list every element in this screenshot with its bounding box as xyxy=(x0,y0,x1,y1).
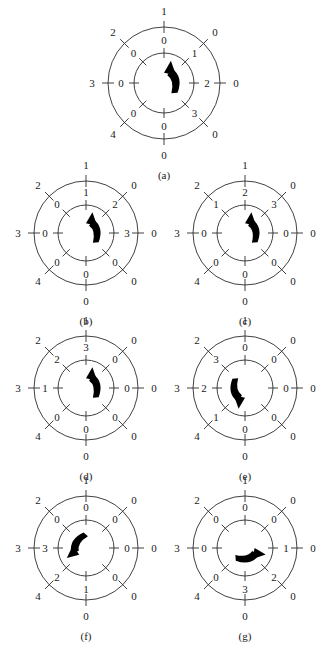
outer-label-b-6: 3 xyxy=(15,227,21,239)
inner-label-a-1: 1 xyxy=(192,47,198,59)
inner-label-b-4: 0 xyxy=(83,268,89,280)
inner-label-a-2: 2 xyxy=(204,77,210,89)
outer-label-c-6: 3 xyxy=(174,227,180,239)
inner-label-b-2: 3 xyxy=(124,227,130,239)
panel-caption-f: (f) xyxy=(0,630,172,642)
outer-label-d-2: 0 xyxy=(151,382,157,394)
inner-label-e-7: 3 xyxy=(213,353,219,365)
inner-label-a-5: 0 xyxy=(131,107,137,119)
inner-label-d-2: 0 xyxy=(124,382,130,394)
pointer-arrow-a xyxy=(155,61,190,96)
outer-label-e-1: 0 xyxy=(290,334,296,346)
figure-canvas: 1001020300403020(a)1102030000403020(b)12… xyxy=(0,0,328,650)
pointer-arrow-d xyxy=(78,367,111,400)
inner-label-g-6: 0 xyxy=(201,542,207,554)
pointer-arrow-e xyxy=(221,376,254,409)
dial-panel-f: 1000000001423320(f) xyxy=(0,462,172,650)
inner-label-d-0: 3 xyxy=(83,341,89,353)
inner-label-e-6: 2 xyxy=(201,382,207,394)
outer-label-a-0: 1 xyxy=(161,5,167,17)
inner-label-b-7: 0 xyxy=(54,198,60,210)
inner-label-f-4: 1 xyxy=(83,583,89,595)
outer-label-g-2: 0 xyxy=(310,542,316,554)
inner-label-c-6: 0 xyxy=(201,227,207,239)
inner-label-g-1: 0 xyxy=(271,513,277,525)
outer-label-f-2: 0 xyxy=(151,542,157,554)
dial-panel-g: 1000010203403020(g) xyxy=(159,462,328,650)
inner-label-g-2: 1 xyxy=(283,542,289,554)
inner-label-b-1: 2 xyxy=(112,198,118,210)
panel-caption-g: (g) xyxy=(159,630,328,642)
outer-label-d-4: 0 xyxy=(83,450,89,462)
outer-label-g-4: 0 xyxy=(242,610,248,622)
inner-label-g-4: 3 xyxy=(242,583,248,595)
inner-label-d-5: 0 xyxy=(54,411,60,423)
inner-label-g-0: 0 xyxy=(242,501,248,513)
outer-label-f-7: 2 xyxy=(35,494,41,506)
inner-label-e-4: 0 xyxy=(242,423,248,435)
inner-label-e-5: 1 xyxy=(213,411,219,423)
pointer-arrow-f xyxy=(67,533,88,558)
outer-label-a-3: 0 xyxy=(212,128,218,140)
inner-label-f-1: 0 xyxy=(112,513,118,525)
inner-label-g-3: 2 xyxy=(271,571,277,583)
inner-label-f-2: 0 xyxy=(124,542,130,554)
outer-label-b-3: 0 xyxy=(131,275,137,287)
outer-label-g-6: 3 xyxy=(174,542,180,554)
outer-label-f-1: 0 xyxy=(131,494,137,506)
inner-label-a-3: 3 xyxy=(192,107,198,119)
outer-label-e-6: 3 xyxy=(174,382,180,394)
inner-label-c-7: 1 xyxy=(213,198,219,210)
inner-label-a-4: 0 xyxy=(161,120,167,132)
inner-label-e-1: 0 xyxy=(271,353,277,365)
outer-label-f-6: 3 xyxy=(15,542,21,554)
outer-label-c-1: 0 xyxy=(290,179,296,191)
inner-label-d-7: 2 xyxy=(54,353,60,365)
dial-graphic-d: 1300000000403122 xyxy=(0,302,172,474)
outer-label-b-2: 0 xyxy=(151,227,157,239)
inner-label-f-7: 0 xyxy=(54,513,60,525)
inner-label-b-3: 0 xyxy=(112,256,118,268)
inner-label-d-6: 1 xyxy=(42,382,48,394)
outer-label-c-3: 0 xyxy=(290,275,296,287)
inner-label-e-0: 0 xyxy=(242,341,248,353)
outer-label-c-2: 0 xyxy=(310,227,316,239)
inner-label-b-5: 0 xyxy=(54,256,60,268)
dial-graphic-b: 1102030000403020 xyxy=(0,147,172,319)
inner-label-c-0: 2 xyxy=(242,186,248,198)
inner-label-d-1: 0 xyxy=(112,353,118,365)
inner-label-a-7: 0 xyxy=(131,47,137,59)
inner-label-d-4: 0 xyxy=(83,423,89,435)
pointer-arrow-g xyxy=(233,540,266,573)
outer-label-d-3: 0 xyxy=(131,430,137,442)
outer-label-g-5: 4 xyxy=(194,590,200,602)
inner-label-g-5: 0 xyxy=(213,571,219,583)
inner-label-b-0: 1 xyxy=(83,186,89,198)
outer-label-d-1: 0 xyxy=(131,334,137,346)
inner-label-e-2: 0 xyxy=(283,382,289,394)
outer-label-a-6: 3 xyxy=(89,77,95,89)
outer-label-g-1: 0 xyxy=(290,494,296,506)
outer-label-c-5: 4 xyxy=(194,275,200,287)
inner-label-c-2: 0 xyxy=(283,227,289,239)
outer-label-e-0: 1 xyxy=(242,314,248,326)
inner-label-f-0: 0 xyxy=(83,501,89,513)
outer-label-d-5: 4 xyxy=(35,430,41,442)
pointer-arrow-b xyxy=(78,212,111,245)
outer-label-e-3: 0 xyxy=(290,430,296,442)
outer-label-d-6: 3 xyxy=(15,382,21,394)
outer-label-a-7: 2 xyxy=(110,26,116,38)
inner-label-f-6: 3 xyxy=(42,542,48,554)
inner-label-c-3: 0 xyxy=(271,256,277,268)
outer-label-c-7: 2 xyxy=(194,179,200,191)
inner-label-c-1: 3 xyxy=(271,198,277,210)
outer-label-b-7: 2 xyxy=(35,179,41,191)
dial-graphic-f: 1000000001423320 xyxy=(0,462,172,634)
outer-label-f-4: 0 xyxy=(83,610,89,622)
inner-label-c-5: 0 xyxy=(213,256,219,268)
inner-label-f-5: 2 xyxy=(54,571,60,583)
inner-label-f-3: 0 xyxy=(112,571,118,583)
outer-label-a-5: 4 xyxy=(110,128,116,140)
outer-label-e-5: 4 xyxy=(194,430,200,442)
pointer-arrow-c xyxy=(237,212,270,245)
